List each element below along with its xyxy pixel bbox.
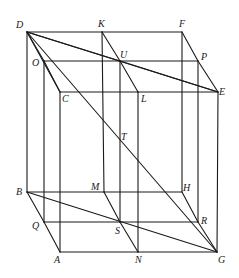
- segment-FP: [182, 32, 198, 61]
- label-O: O: [32, 57, 39, 68]
- label-K: K: [97, 18, 106, 29]
- label-H: H: [182, 182, 191, 193]
- label-P: P: [200, 51, 207, 62]
- label-E: E: [218, 86, 225, 97]
- label-G: G: [218, 254, 225, 265]
- label-M: M: [90, 181, 100, 192]
- label-L: L: [140, 93, 147, 104]
- segment-HR: [182, 192, 198, 222]
- label-R: R: [200, 215, 207, 226]
- label-N: N: [134, 254, 143, 265]
- label-S: S: [115, 225, 120, 236]
- segment-PE: [198, 61, 218, 92]
- label-D: D: [15, 19, 24, 30]
- label-Q: Q: [32, 220, 40, 231]
- label-B: B: [16, 186, 22, 197]
- label-F: F: [178, 18, 186, 29]
- label-C: C: [62, 93, 69, 104]
- segment-EG: [217, 92, 218, 252]
- diagram-lines: [27, 32, 218, 252]
- geometric-diagram: D K F O U P C L E T B M H Q S R A N G: [0, 0, 239, 278]
- segment-RG: [198, 222, 217, 252]
- label-U: U: [120, 49, 128, 60]
- label-A: A: [53, 254, 61, 265]
- label-T: T: [121, 131, 128, 142]
- segment-QA: [44, 222, 60, 252]
